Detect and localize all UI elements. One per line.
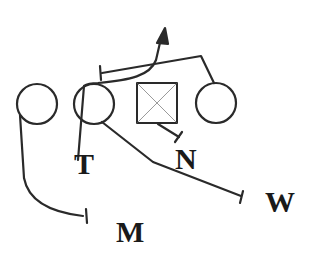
label-m: M [116, 215, 144, 248]
player-circle-left [17, 84, 57, 124]
block-stop-m [86, 209, 87, 223]
play-diagram: T N W M [0, 0, 320, 255]
block-stop-n [175, 132, 182, 142]
arrowhead-icon [157, 28, 168, 44]
label-t: T [74, 147, 94, 180]
route-release-arrow [78, 34, 162, 160]
block-stop-top [100, 66, 101, 80]
label-n: N [175, 142, 197, 175]
player-circle-left-center [74, 84, 114, 124]
route-square-to-n [158, 124, 179, 137]
block-stop-w [240, 191, 243, 203]
player-circle-right [196, 83, 236, 123]
center-square-icon [137, 83, 177, 123]
label-w: W [265, 185, 295, 218]
route-right-block [102, 56, 214, 83]
